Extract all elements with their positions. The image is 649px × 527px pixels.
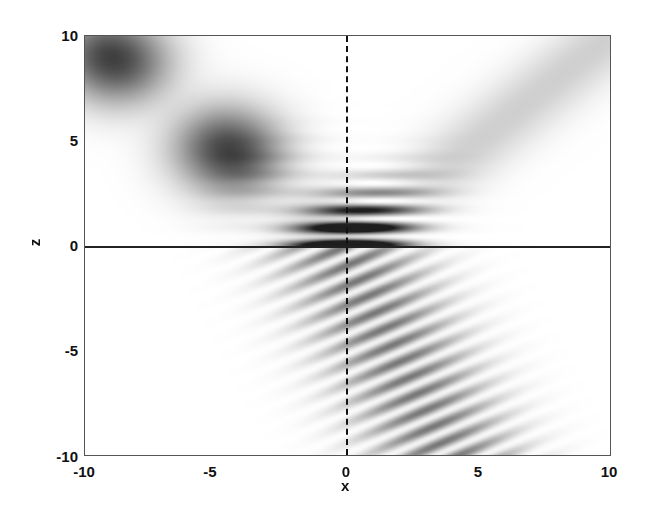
y-tick-10: 10 — [61, 27, 78, 44]
x-axis-label: x — [341, 477, 349, 494]
x-tick-10: 10 — [601, 463, 618, 480]
y-tick-m5: -5 — [65, 342, 78, 359]
y-tick-0: 0 — [70, 237, 78, 254]
x-tick-5: 5 — [474, 463, 482, 480]
y-axis-label: z — [26, 239, 43, 247]
x-tick-m10: -10 — [73, 463, 95, 480]
x-tick-m5: -5 — [203, 463, 216, 480]
dashed-line-x0 — [346, 36, 348, 455]
plot-area — [84, 35, 611, 456]
y-tick-5: 5 — [70, 132, 78, 149]
